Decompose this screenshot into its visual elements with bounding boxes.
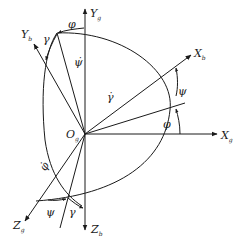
gamma-dot-label: γ̇ — [107, 91, 114, 104]
gamma-top-label: γ — [43, 33, 50, 46]
psi-dot-label: ψ̇ — [74, 56, 83, 69]
phi-top-label: φ — [68, 18, 76, 31]
intermediate-line-top — [57, 33, 85, 134]
gamma-bottom-label: γ — [69, 206, 76, 219]
xb-axis — [85, 55, 191, 134]
zg-axis — [25, 134, 85, 221]
zg-label: Zg — [12, 219, 25, 234]
xb-label: Xb — [193, 47, 206, 61]
yb-label: Yb — [21, 28, 32, 42]
coordinate-frame-diagram: Yg Yb Xb Xg Og Zg Zb φ γ ψ̇ γ̇ ψ φ φ̇ ψ … — [0, 0, 238, 248]
phi-right-arrow — [176, 109, 180, 134]
zb-label: Zb — [90, 223, 103, 237]
xg-label: Xg — [220, 129, 233, 144]
origin-label: Og — [66, 128, 79, 143]
phi-right-label: φ — [163, 118, 171, 131]
psi-right-label: ψ — [178, 85, 187, 98]
diagram-canvas: Yg Yb Xb Xg Og Zg Zb φ γ ψ̇ γ̇ ψ φ φ̇ ψ … — [0, 0, 238, 248]
psi-bottom-label: ψ — [46, 206, 55, 219]
yg-label: Yg — [90, 7, 101, 22]
